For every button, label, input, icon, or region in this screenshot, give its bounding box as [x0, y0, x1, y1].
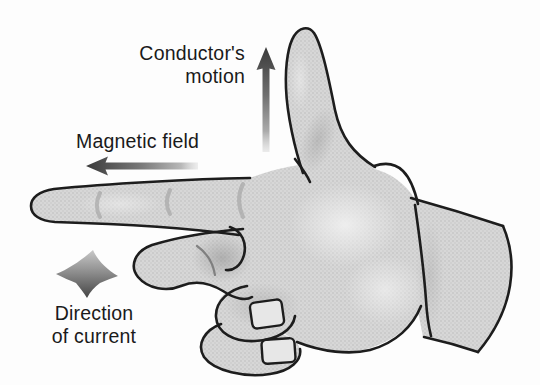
diagram-canvas: Conductor's motion Magnetic field Direct…: [0, 0, 540, 385]
conductor-motion-label: Conductor's motion: [139, 42, 245, 88]
magnetic-field-label: Magnetic field: [76, 130, 199, 153]
conductor-motion-line2: motion: [185, 65, 245, 87]
current-arrow-down-icon: [56, 250, 118, 298]
motion-arrow-up-icon: [257, 47, 276, 152]
pinky-fingernail: [261, 338, 296, 364]
current-direction-line2: of current: [52, 325, 136, 347]
current-direction-line1: Direction: [55, 302, 134, 324]
field-arrow-left-icon: [86, 157, 198, 176]
current-direction-label: Direction of current: [42, 302, 146, 348]
ring-fingernail: [249, 299, 284, 329]
conductor-motion-line1: Conductor's: [139, 42, 245, 64]
